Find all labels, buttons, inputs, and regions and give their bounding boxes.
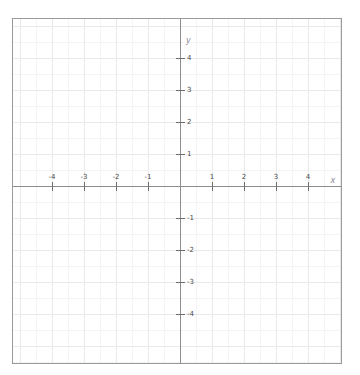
x-axis-tick: [116, 182, 117, 191]
y-axis-tick: [176, 58, 185, 59]
y-axis-tick: [176, 90, 185, 91]
y-axis-tick: [176, 122, 185, 123]
x-axis-tick-label: 1: [210, 174, 214, 181]
x-axis-tick-label: 4: [306, 174, 310, 181]
y-axis-tick-label: -4: [187, 311, 194, 318]
x-axis-tick: [276, 182, 277, 191]
x-axis-tick-label: 2: [242, 174, 246, 181]
x-axis-label: x: [330, 177, 335, 185]
y-axis-tick-label: -1: [187, 215, 194, 222]
x-axis-tick-label: -4: [49, 174, 56, 181]
y-axis-tick-label: -2: [187, 247, 194, 254]
x-axis-tick-label: 3: [274, 174, 278, 181]
x-axis-line: [13, 186, 341, 187]
x-axis-tick: [212, 182, 213, 191]
x-axis-tick: [244, 182, 245, 191]
y-axis-tick-label: 1: [187, 151, 191, 158]
y-axis-label: y: [186, 37, 191, 45]
x-axis-tick-label: -3: [81, 174, 88, 181]
x-axis-tick: [148, 182, 149, 191]
y-axis-tick: [176, 154, 185, 155]
y-axis-tick: [176, 218, 185, 219]
x-axis-tick: [84, 182, 85, 191]
x-axis-tick: [308, 182, 309, 191]
y-axis-tick: [176, 314, 185, 315]
x-axis-tick: [52, 182, 53, 191]
x-axis-tick-label: -1: [145, 174, 152, 181]
plot-area: -4-3-2-112344321-1-2-3-4 x y: [12, 18, 342, 364]
y-axis-tick-label: 3: [187, 87, 191, 94]
y-axis-tick: [176, 250, 185, 251]
y-axis-tick: [176, 282, 185, 283]
y-axis-tick-label: 2: [187, 119, 191, 126]
y-axis-tick-label: -3: [187, 279, 194, 286]
x-axis-tick-label: -2: [113, 174, 120, 181]
y-axis-line: [180, 19, 181, 363]
coordinate-plane-figure: -4-3-2-112344321-1-2-3-4 x y: [0, 0, 360, 375]
y-axis-tick-label: 4: [187, 55, 191, 62]
